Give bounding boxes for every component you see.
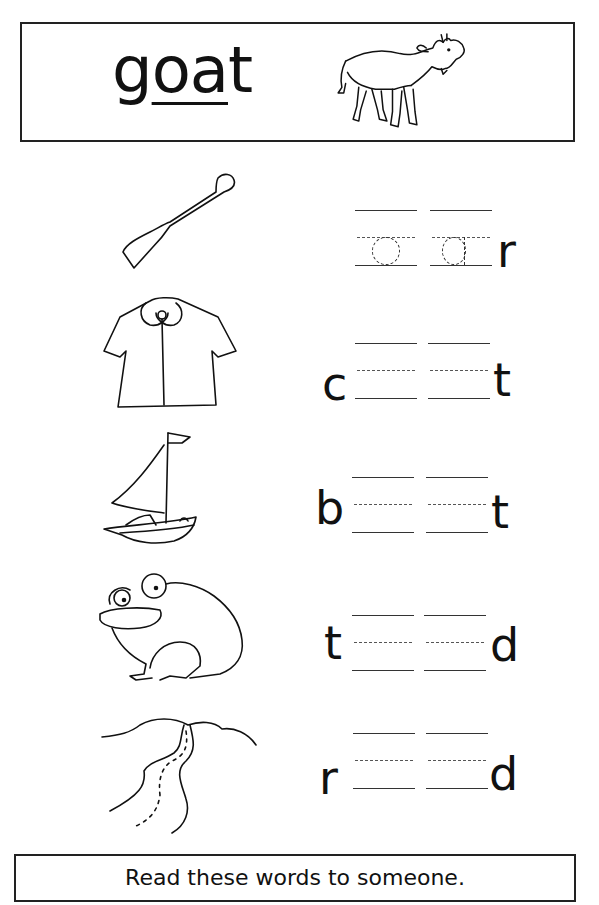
word-letters: r d xyxy=(300,715,540,840)
traced-letter-a-stem xyxy=(464,237,465,265)
boat-icon xyxy=(90,425,280,550)
base-line xyxy=(428,398,490,399)
word-row: b t xyxy=(0,425,599,550)
letter-blank-2[interactable] xyxy=(430,210,492,266)
last-letter: d xyxy=(490,622,519,668)
toad-icon xyxy=(90,570,280,695)
word-letters: r xyxy=(300,170,540,295)
mid-line xyxy=(428,504,486,505)
top-line xyxy=(426,477,488,478)
word-letters: t d xyxy=(300,570,540,695)
coat-icon xyxy=(90,295,280,420)
first-letter: b xyxy=(315,485,344,531)
letter-blank-2[interactable] xyxy=(426,733,488,789)
key-word-vowel-team: oa xyxy=(152,33,228,107)
last-letter: d xyxy=(489,751,518,797)
top-line xyxy=(352,615,414,616)
key-word-start: g xyxy=(112,33,152,107)
base-line xyxy=(424,670,486,671)
base-line xyxy=(426,532,488,533)
word-row: t d xyxy=(0,570,599,695)
word-row: r d xyxy=(0,715,599,840)
base-line xyxy=(426,788,488,789)
first-letter: c xyxy=(322,361,347,407)
mid-line xyxy=(426,642,484,643)
base-line xyxy=(352,670,414,671)
top-line xyxy=(355,343,417,344)
mid-line xyxy=(354,504,412,505)
instruction-text: Read these words to someone. xyxy=(125,865,465,890)
letter-blank-1[interactable] xyxy=(352,615,414,671)
word-row: c t xyxy=(0,295,599,420)
base-line xyxy=(430,265,492,266)
top-line xyxy=(352,477,414,478)
letter-blank-2[interactable] xyxy=(428,343,490,399)
base-line xyxy=(352,532,414,533)
traced-letter-o xyxy=(372,237,400,265)
goat-icon xyxy=(325,30,475,140)
first-letter: r xyxy=(319,755,338,801)
mid-line xyxy=(428,760,486,761)
mid-line xyxy=(355,760,413,761)
last-letter: t xyxy=(493,357,511,403)
top-line xyxy=(426,733,488,734)
word-letters: c t xyxy=(300,295,540,420)
last-letter: r xyxy=(497,228,516,274)
first-letter: t xyxy=(324,620,342,666)
instruction-box: Read these words to someone. xyxy=(14,854,576,902)
mid-line xyxy=(432,237,490,238)
traced-letter-a-bowl xyxy=(442,237,466,265)
key-word: goat xyxy=(112,38,252,102)
base-line xyxy=(353,788,415,789)
letter-blank-1[interactable] xyxy=(352,477,414,533)
top-line xyxy=(430,210,492,211)
oar-icon xyxy=(90,170,280,295)
letter-blank-1[interactable] xyxy=(355,343,417,399)
mid-line xyxy=(354,642,412,643)
word-row: r xyxy=(0,170,599,295)
top-line xyxy=(355,210,417,211)
letter-blank-2[interactable] xyxy=(426,477,488,533)
base-line xyxy=(355,398,417,399)
letter-blank-1[interactable] xyxy=(353,733,415,789)
mid-line xyxy=(430,370,488,371)
base-line xyxy=(355,265,417,266)
letter-blank-2[interactable] xyxy=(424,615,486,671)
last-letter: t xyxy=(491,489,509,535)
word-letters: b t xyxy=(300,425,540,550)
road-icon xyxy=(90,715,280,840)
key-word-end: t xyxy=(228,33,252,107)
letter-blank-1[interactable] xyxy=(355,210,417,266)
top-line xyxy=(428,343,490,344)
top-line xyxy=(424,615,486,616)
mid-line xyxy=(357,370,415,371)
top-line xyxy=(353,733,415,734)
key-word-box xyxy=(20,22,575,142)
